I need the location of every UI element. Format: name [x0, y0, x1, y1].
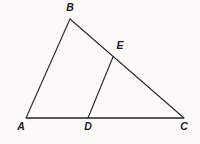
geometry-figure: ABCDE	[0, 0, 200, 144]
vertex-label-a: A	[16, 120, 25, 132]
segments-group	[26, 19, 184, 118]
vertex-label-e: E	[116, 39, 124, 51]
segment-bc	[70, 19, 184, 118]
vertex-label-c: C	[180, 120, 188, 132]
triangle-diagram-svg: ABCDE	[0, 0, 200, 144]
vertex-label-b: B	[66, 1, 74, 13]
vertex-label-d: D	[84, 120, 92, 132]
segment-ab	[26, 19, 70, 118]
segment-de	[88, 57, 113, 118]
vertex-labels-group: ABCDE	[16, 1, 188, 132]
